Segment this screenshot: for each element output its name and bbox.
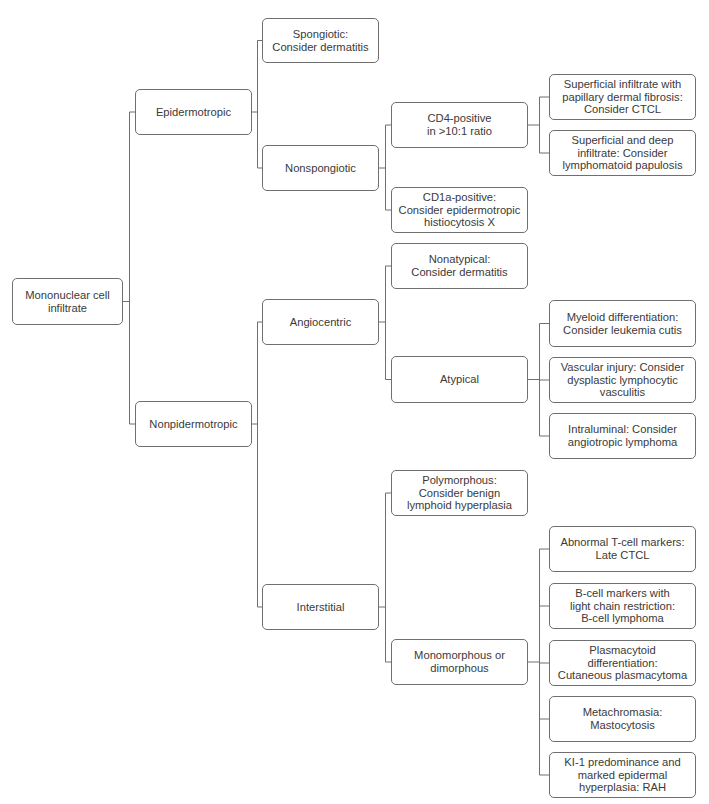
node-metachromasia: Metachromasia: Mastocytosis <box>549 696 696 742</box>
node-spongiotic: Spongiotic: Consider dermatitis <box>262 18 379 63</box>
node-vascular: Vascular injury: Consider dysplastic lym… <box>549 357 696 403</box>
node-monomorphous: Monomorphous or dimorphous <box>391 639 528 685</box>
node-nonatypical: Nonatypical: Consider dermatitis <box>391 243 528 289</box>
node-superficial-deep: Superficial and deep infiltrate: Conside… <box>549 130 696 176</box>
node-nonspongiotic: Nonspongiotic <box>262 145 379 191</box>
node-ki1: KI-1 predominance and marked epidermal h… <box>549 752 696 798</box>
node-polymorphous: Polymorphous: Consider benign lymphoid h… <box>391 470 528 516</box>
node-intraluminal: Intraluminal: Consider angiotropic lymph… <box>549 413 696 459</box>
decision-tree-diagram: Mononuclear cell infiltrateEpidermotropi… <box>0 0 709 804</box>
node-cd1a: CD1a-positive: Consider epidermotropic h… <box>391 187 528 233</box>
node-cd4: CD4-positive in >10:1 ratio <box>391 102 528 148</box>
node-angiocentric: Angiocentric <box>262 299 379 345</box>
node-superficial: Superficial infiltrate with papillary de… <box>549 74 696 120</box>
node-root: Mononuclear cell infiltrate <box>12 278 123 325</box>
node-myeloid: Myeloid differentiation: Consider leukem… <box>549 300 696 347</box>
node-plasmacytoid: Plasmacytoid differentiation: Cutaneous … <box>549 640 696 686</box>
node-b-cell: B-cell markers with light chain restrict… <box>549 583 696 629</box>
node-atypical: Atypical <box>391 356 528 403</box>
node-epidermotropic: Epidermotropic <box>135 89 252 135</box>
node-abnormal-t: Abnormal T-cell markers: Late CTCL <box>549 526 696 572</box>
node-nonpidermotropic: Nonpidermotropic <box>135 401 252 447</box>
node-interstitial: Interstitial <box>262 584 379 630</box>
